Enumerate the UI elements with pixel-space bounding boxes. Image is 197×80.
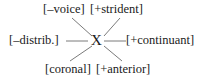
- branch-top-right-line: [104, 18, 120, 36]
- feature-label-distributed: [–distrib.]: [9, 34, 59, 47]
- feature-label-continuant: [+continuant]: [126, 34, 194, 47]
- feature-label-coronal: [coronal]: [45, 63, 91, 76]
- center-node-x: X: [91, 33, 102, 48]
- branch-top-left-line: [72, 18, 92, 36]
- branch-bottom-left-line: [70, 46, 92, 61]
- feature-label-anterior: [+anterior]: [96, 63, 150, 76]
- feature-label-strident: [+strident]: [90, 3, 143, 16]
- feature-diagram: [–voice] [+strident] [–distrib.] [+conti…: [0, 0, 197, 80]
- feature-label-voice: [–voice]: [43, 3, 85, 16]
- branch-bottom-right-line: [104, 46, 122, 61]
